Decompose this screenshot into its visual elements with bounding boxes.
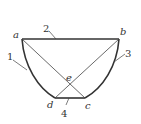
part-number-1: 1 (7, 51, 13, 62)
part-number-3: 3 (125, 48, 131, 59)
point-label-d: d (47, 99, 53, 110)
part-number-2: 2 (43, 23, 49, 34)
point-label-e: e (66, 72, 72, 83)
leader-line-4 (66, 98, 69, 105)
right-curved-side (85, 39, 119, 98)
leader-line-2 (49, 31, 56, 39)
diagram-canvas: a b c d e 1 2 3 4 (0, 0, 141, 124)
leader-line-1 (13, 60, 27, 70)
point-label-c: c (85, 100, 91, 111)
part-number-4: 4 (61, 108, 67, 119)
left-curved-side (22, 39, 55, 98)
bowl-diagram: a b c d e 1 2 3 4 (0, 0, 141, 124)
diagonal-bd (55, 39, 119, 98)
point-label-a: a (13, 29, 19, 40)
point-label-b: b (120, 26, 126, 37)
diagonal-ac (22, 39, 85, 98)
